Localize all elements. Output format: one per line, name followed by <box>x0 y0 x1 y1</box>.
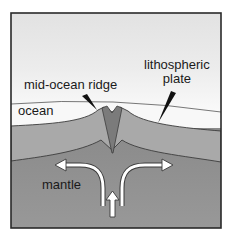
label-lithospheric-plate: lithospheric plate <box>144 58 210 86</box>
label-mantle: mantle <box>42 178 81 192</box>
label-mid-ocean-ridge: mid-ocean ridge <box>24 78 117 92</box>
label-lithospheric-line1: lithospheric <box>144 58 210 72</box>
label-lithospheric-line2: plate <box>144 72 210 86</box>
label-ocean: ocean <box>18 104 53 118</box>
seafloor-spreading-diagram <box>0 0 233 238</box>
